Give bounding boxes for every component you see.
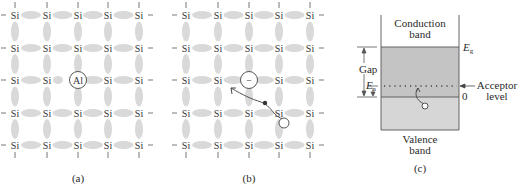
svg-text:Si: Si bbox=[104, 75, 113, 86]
svg-text:Si: Si bbox=[182, 43, 191, 54]
svg-text:Si: Si bbox=[214, 43, 223, 54]
svg-text:band: band bbox=[409, 28, 431, 40]
svg-text:Si: Si bbox=[306, 10, 315, 21]
svg-text:Si: Si bbox=[43, 10, 52, 21]
svg-text:Si: Si bbox=[135, 108, 144, 119]
svg-text:Si: Si bbox=[74, 140, 83, 151]
svg-text:Si: Si bbox=[135, 10, 144, 21]
svg-text:Si: Si bbox=[11, 43, 20, 54]
svg-text:Si: Si bbox=[104, 43, 113, 54]
svg-text:Si: Si bbox=[74, 10, 83, 21]
aluminum-impurity-atom: Al bbox=[70, 72, 87, 89]
panel-c-caption: (c) bbox=[414, 162, 427, 175]
svg-text:level: level bbox=[486, 90, 507, 102]
hole-circle-icon bbox=[422, 103, 428, 109]
svg-text:Si: Si bbox=[104, 108, 113, 119]
ea-label: Ea bbox=[365, 79, 377, 93]
panel-a-lattice: SiSiSiSiSi SiSiSiSiSi SiSiSiSi SiSiSiSiS… bbox=[1, 2, 153, 185]
svg-text:Si: Si bbox=[104, 10, 113, 21]
svg-text:Si: Si bbox=[275, 140, 284, 151]
svg-text:Si: Si bbox=[135, 140, 144, 151]
svg-text:Si: Si bbox=[43, 140, 52, 151]
svg-text:Si: Si bbox=[245, 108, 254, 119]
svg-text:Si: Si bbox=[306, 43, 315, 54]
svg-text:Si: Si bbox=[182, 108, 191, 119]
svg-text:Si: Si bbox=[11, 75, 20, 86]
svg-text:Al: Al bbox=[73, 75, 83, 86]
svg-text:Si: Si bbox=[135, 75, 144, 86]
svg-text:Si: Si bbox=[275, 10, 284, 21]
panel-c-band-diagram: Gap Ea Conduction band Eg 0 Acceptor lev… bbox=[357, 15, 517, 175]
panel-b-lattice: SiSiSiSiSi SiSiSiSiSi SiSiSiSi SiSiSiSiS… bbox=[172, 2, 324, 185]
panel-b-caption: (b) bbox=[243, 172, 256, 185]
svg-text:Si: Si bbox=[306, 140, 315, 151]
ionized-acceptor-atom: − bbox=[241, 72, 258, 89]
svg-text:Si: Si bbox=[74, 108, 83, 119]
svg-text:Si: Si bbox=[11, 10, 20, 21]
svg-text:Si: Si bbox=[275, 43, 284, 54]
hole-circle-icon bbox=[279, 118, 289, 128]
svg-text:Si: Si bbox=[74, 43, 83, 54]
svg-text:Si: Si bbox=[214, 108, 223, 119]
svg-text:Si: Si bbox=[245, 43, 254, 54]
svg-text:−: − bbox=[246, 75, 252, 86]
svg-text:Si: Si bbox=[43, 43, 52, 54]
svg-text:Si: Si bbox=[182, 75, 191, 86]
svg-text:Si: Si bbox=[11, 108, 20, 119]
figure-canvas: SiSiSiSiSi SiSiSiSiSi SiSiSiSi SiSiSiSiS… bbox=[0, 0, 519, 192]
svg-text:Si: Si bbox=[135, 43, 144, 54]
svg-text:band: band bbox=[409, 144, 431, 156]
svg-text:Si: Si bbox=[43, 75, 52, 86]
svg-text:Si: Si bbox=[245, 10, 254, 21]
gap-label: Gap bbox=[359, 63, 378, 75]
svg-text:Si: Si bbox=[43, 108, 52, 119]
svg-text:Si: Si bbox=[182, 140, 191, 151]
svg-text:Si: Si bbox=[306, 75, 315, 86]
zero-level-label: 0 bbox=[462, 90, 468, 102]
svg-text:Si: Si bbox=[11, 140, 20, 151]
svg-text:Si: Si bbox=[275, 75, 284, 86]
band-gap-region bbox=[381, 47, 459, 97]
svg-text:Si: Si bbox=[245, 140, 254, 151]
svg-text:Si: Si bbox=[104, 140, 113, 151]
panel-a-caption: (a) bbox=[72, 172, 85, 185]
svg-text:Si: Si bbox=[214, 75, 223, 86]
svg-text:Si: Si bbox=[214, 10, 223, 21]
acceptor-pointer-arrow bbox=[460, 84, 475, 88]
electron-dot-icon bbox=[263, 101, 267, 105]
svg-text:Si: Si bbox=[182, 10, 191, 21]
svg-text:Si: Si bbox=[306, 108, 315, 119]
svg-text:Si: Si bbox=[214, 140, 223, 151]
eg-label: Eg bbox=[462, 41, 474, 55]
